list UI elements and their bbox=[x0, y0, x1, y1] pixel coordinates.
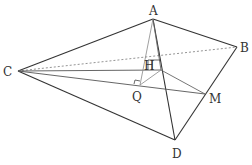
segment-CH bbox=[18, 70, 161, 71]
edge-CB-hidden bbox=[18, 47, 237, 71]
segment-AQ bbox=[140, 19, 153, 85]
label-H: H bbox=[144, 59, 154, 73]
segment-HM bbox=[161, 70, 205, 94]
edge-AC bbox=[18, 19, 153, 71]
label-M: M bbox=[209, 92, 221, 106]
segment-CM bbox=[18, 71, 205, 94]
label-Q: Q bbox=[132, 90, 142, 104]
edge-AB bbox=[153, 19, 237, 47]
edge-BD bbox=[175, 47, 237, 140]
edge-CD bbox=[18, 71, 175, 140]
tetrahedron-diagram: A B C D H Q M bbox=[0, 0, 252, 165]
label-C: C bbox=[3, 65, 12, 79]
label-D: D bbox=[172, 147, 182, 161]
label-A: A bbox=[148, 4, 158, 18]
right-angle-mark-Q bbox=[134, 80, 140, 84]
label-B: B bbox=[240, 41, 249, 55]
